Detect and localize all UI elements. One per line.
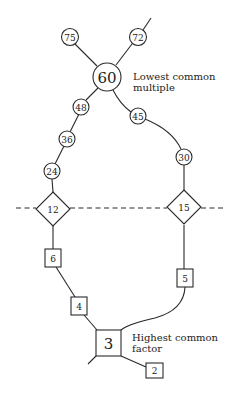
node-48: 48 <box>73 99 89 115</box>
node-30: 30 <box>176 149 192 165</box>
node-2: 2 <box>146 363 163 378</box>
node-lcm-60: 60 <box>93 63 121 91</box>
node-5: 5 <box>177 269 193 287</box>
number-15-diamond: 15 <box>167 190 201 224</box>
hcf-caption-line1: Highest common <box>132 332 219 343</box>
node-label: 45 <box>132 112 144 122</box>
node-24: 24 <box>44 163 60 179</box>
number-12-diamond: 12 <box>36 192 70 226</box>
node-label: 30 <box>178 153 190 163</box>
node-36: 36 <box>59 131 75 147</box>
node-72: 72 <box>130 29 147 46</box>
node-label: 4 <box>76 302 82 312</box>
node-label: 2 <box>152 366 158 376</box>
hcf-caption-line2: factor <box>132 343 162 354</box>
node-hcf-3: 3 <box>96 330 121 356</box>
node-75: 75 <box>62 29 79 46</box>
node-label: 6 <box>50 254 56 264</box>
lcm-caption-line2: multiple <box>133 82 175 93</box>
lcm-hcf-diagram: 75 72 60 Lowest common multiple 48 36 24… <box>0 0 232 398</box>
node-label: 72 <box>132 33 143 43</box>
node-label: 75 <box>64 33 76 43</box>
number-label: 12 <box>47 205 58 215</box>
lcm-caption-line1: Lowest common <box>133 71 216 82</box>
node-6: 6 <box>45 249 61 267</box>
node-label: 48 <box>75 103 87 113</box>
lcm-value: 60 <box>97 69 116 87</box>
node-label: 24 <box>46 167 58 177</box>
node-4: 4 <box>71 297 87 315</box>
node-45: 45 <box>130 108 146 124</box>
node-label: 5 <box>182 274 188 284</box>
number-label: 15 <box>178 203 190 213</box>
node-label: 36 <box>61 135 73 145</box>
hcf-value: 3 <box>104 335 114 353</box>
